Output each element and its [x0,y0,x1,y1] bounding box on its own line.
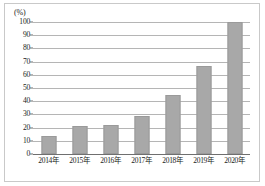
plot-area: 0102030405060708090100 [33,22,250,154]
bar-2014年[interactable] [41,136,56,154]
x-tick-label-2017年: 2017年 [131,156,152,165]
y-tick-label-100: 100 [19,18,30,26]
y-axis-unit-label: (%) [14,8,25,17]
bar-slot [188,22,219,154]
bar-slot [33,22,64,154]
bar-slot [95,22,126,154]
gridline-0 [33,154,250,155]
bar-chart-figure: (%) 0102030405060708090100 2014年2015年201… [0,0,265,186]
bar-2016年[interactable] [103,125,118,154]
y-tick-label-60: 60 [23,71,30,79]
y-tick-label-70: 70 [23,58,30,66]
y-tick-label-50: 50 [23,84,30,92]
y-tick-label-0: 0 [26,150,30,158]
x-tick-label-2014年: 2014年 [38,156,59,165]
bar-2020年[interactable] [227,22,242,154]
x-axis-labels-group: 2014年2015年2016年2017年2018年2019年2020年 [33,156,250,176]
y-tick-label-20: 20 [23,124,30,132]
x-tick-label-2016年: 2016年 [100,156,121,165]
x-tick-label-2018年: 2018年 [162,156,183,165]
bar-slot [126,22,157,154]
y-tick-label-30: 30 [23,110,30,118]
y-tick-label-40: 40 [23,97,30,105]
x-tick-label-2019年: 2019年 [193,156,214,165]
y-tick-label-10: 10 [23,137,30,145]
bar-2017年[interactable] [134,116,149,154]
bar-2018年[interactable] [165,95,180,154]
y-tick-label-90: 90 [23,31,30,39]
bar-slot [219,22,250,154]
bar-2015年[interactable] [72,126,87,154]
bar-slot [64,22,95,154]
bar-2019年[interactable] [196,66,211,154]
bar-slot [157,22,188,154]
bars-group [33,22,250,154]
x-tick-label-2015年: 2015年 [69,156,90,165]
x-tick-label-2020年: 2020年 [224,156,245,165]
y-tick-label-80: 80 [23,44,30,52]
